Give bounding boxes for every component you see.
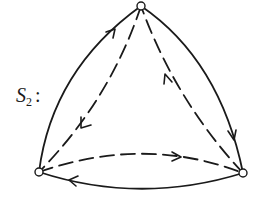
edge-right-inner [141, 6, 243, 173]
label-base: S [16, 84, 26, 106]
arrow-right-inner-icon [164, 74, 172, 84]
diagram-canvas: S2: [0, 0, 261, 201]
diagram-label: S2: [16, 84, 41, 110]
vertex-bottom-right [239, 169, 247, 177]
vertex-top [137, 2, 145, 10]
edge-left-inner [39, 6, 141, 172]
edge-right-outer [141, 6, 243, 173]
vertex-bottom-left [35, 168, 43, 176]
label-subscript: 2 [26, 95, 32, 109]
label-suffix: : [35, 84, 41, 106]
edge-left-outer [39, 6, 141, 172]
edge-bottom-inner [39, 154, 243, 173]
arrow-left-inner-icon [81, 117, 91, 128]
